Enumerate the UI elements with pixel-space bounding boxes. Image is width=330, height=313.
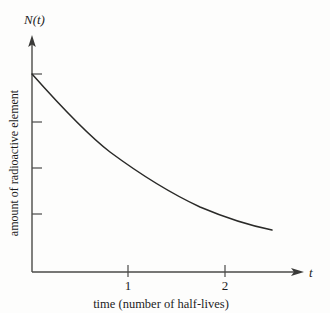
y-axis-symbol-label: N(t) [23,12,45,27]
chart-background [0,0,330,313]
x-axis-symbol-label: t [309,265,313,280]
x-axis-caption: time (number of half-lives) [93,297,229,311]
decay-chart-svg: N(t) t 1 2 time (number of half-lives) a… [0,0,330,313]
x-tick-label: 2 [222,278,229,293]
x-tick-label: 1 [125,278,132,293]
y-axis-caption: amount of radioactive element [7,89,21,236]
decay-figure: N(t) t 1 2 time (number of half-lives) a… [0,0,330,313]
